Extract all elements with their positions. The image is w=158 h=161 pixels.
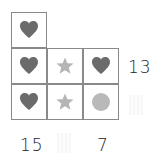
heart-icon xyxy=(19,92,39,112)
cell-r1-c1 xyxy=(47,48,83,84)
star-icon xyxy=(55,92,75,112)
heart-icon xyxy=(19,20,39,40)
cell-r2-c2 xyxy=(83,84,119,120)
cell-r2-c0 xyxy=(11,84,47,120)
cell-r0-c0 xyxy=(11,12,47,48)
col0-sum: 15 xyxy=(20,135,44,155)
heart-icon xyxy=(91,56,111,76)
heart-icon xyxy=(19,56,39,76)
cell-r1-c0 xyxy=(11,48,47,84)
cell-r2-c1 xyxy=(47,84,83,120)
cell-r1-c2 xyxy=(83,48,119,84)
row2-sum-hidden xyxy=(129,95,143,115)
col1-sum-hidden xyxy=(57,133,71,153)
row1-sum: 13 xyxy=(128,57,152,77)
star-icon xyxy=(55,56,75,76)
circle-icon xyxy=(91,92,111,112)
col2-sum: 7 xyxy=(97,135,109,155)
